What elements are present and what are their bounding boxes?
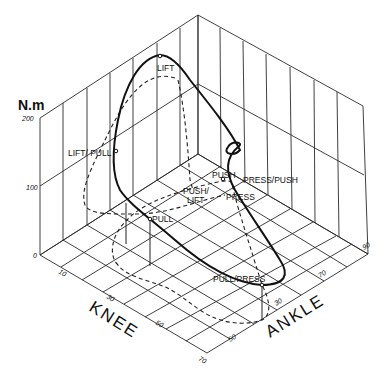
knee-tick-30: 30 (106, 293, 116, 303)
ankle-tick-50: 50 (227, 333, 237, 343)
torque-unit-label: N.m (18, 97, 44, 113)
ankle-axis-title: ANKLE (262, 290, 328, 341)
label-lift-pull: LIFT/ PULL (68, 148, 112, 158)
z-tick-100: 100 (26, 184, 38, 191)
right-wall-grid (198, 15, 368, 254)
label-pull: PULL (152, 214, 174, 224)
label-lift: LIFT (157, 63, 174, 73)
ankle-tick-30: 30 (273, 297, 283, 307)
joint-torque-3d-diagram: N.m 200 100 0 10 30 50 70 KNEE 30 50 70 … (0, 0, 387, 369)
label-press: PRESS (226, 192, 255, 202)
left-wall-grid (40, 15, 198, 255)
label-push-lift-2: LIFT (187, 195, 204, 205)
z-tick-200: 200 (21, 115, 34, 122)
ankle-tick-90: 90 (361, 241, 371, 251)
knee-axis-title: KNEE (86, 297, 142, 342)
floor-grid (40, 154, 368, 353)
ankle-tick-70: 70 (317, 269, 327, 279)
knee-tick-10: 10 (58, 268, 68, 278)
label-push: PUSH (212, 170, 236, 180)
label-pull-press: PULL/PRESS (213, 274, 266, 284)
label-press-push: PRESS/PUSH (243, 175, 298, 185)
knee-tick-70: 70 (198, 355, 208, 365)
z-tick-0: 0 (33, 252, 37, 259)
